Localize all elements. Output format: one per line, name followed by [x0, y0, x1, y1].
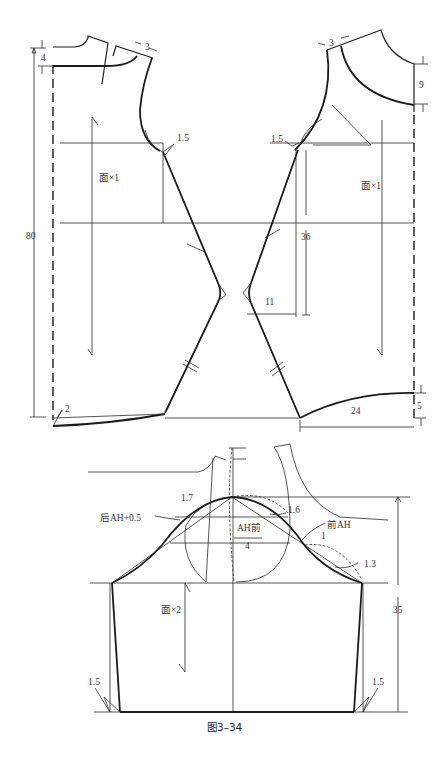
label-sleeve-length: 35: [393, 605, 403, 615]
label-hem-rise: 5: [417, 401, 422, 411]
front-shoulder-neck: [327, 30, 414, 112]
label-front-curve: 前AH: [327, 519, 351, 530]
label-waist-suppression: 11: [265, 297, 274, 307]
back-neck-shoulder: [53, 36, 108, 84]
ref-back-armhole: [206, 458, 213, 582]
back-armhole: [140, 58, 160, 151]
label-total-length: 80: [26, 231, 36, 241]
sleeve-grain-arrow: [179, 583, 190, 672]
label-back-grain: 面×1: [99, 173, 119, 183]
front-cap-raise-leader: [270, 513, 286, 515]
front-balance-notch: [265, 229, 280, 238]
label-back-armhole: 1.5: [177, 133, 189, 143]
sleeve-front-seam: [354, 583, 362, 712]
sleeve-left-hem-notch: [95, 688, 120, 712]
sleeve-piece: [88, 444, 410, 712]
label-front-armhole: 1.5: [271, 134, 283, 144]
label-front-neck-depth: 9: [419, 80, 424, 90]
label-back-curve: 后AH+0.5: [100, 513, 141, 523]
label-sleeve-grain: 面×2: [161, 605, 181, 615]
back-neck-curve: [53, 56, 137, 66]
label-back-neck-depth: 4: [41, 53, 46, 63]
sleeve-right-hem-notch: [354, 688, 378, 712]
back-grain-arrow: [88, 117, 98, 355]
label-left-hem: 1.5: [88, 677, 100, 687]
label-back-shoulder: 3: [145, 42, 150, 52]
label-back-cap-raise: 1.7: [181, 493, 193, 503]
front-neck-curve: [341, 46, 414, 105]
back-side-seam: [163, 152, 220, 413]
label-hem-width: 24: [351, 406, 361, 416]
label-waist-height: 36: [301, 232, 311, 242]
sleeve-back-seam: [112, 583, 120, 712]
label-fraction-denominator: 4: [245, 541, 250, 551]
ref-back-neck: [88, 456, 226, 472]
label-front-cap-raise: 1.6: [288, 505, 300, 515]
back-body-piece: [30, 36, 226, 426]
front-armhole: [295, 50, 328, 150]
front-armhole-notch: [285, 141, 299, 146]
label-hem-drop: 2: [65, 404, 70, 414]
label-front-hollow: 1.3: [364, 559, 376, 569]
pattern-diagram: 4 3 1.5 80 2 面×1 3 9 1.5 面×1 36 11 24 5: [0, 0, 448, 769]
label-fraction-numerator: AH前: [237, 522, 261, 533]
label-front-crossing: 1: [321, 531, 326, 541]
label-front-shoulder: 3: [329, 38, 334, 48]
front-side-seam: [249, 150, 300, 418]
label-front-grain: 面×1: [361, 181, 381, 191]
hem-width-dimension: [300, 420, 414, 432]
figure-caption: 图3–34: [207, 721, 243, 733]
front-grain-arrow: [377, 120, 382, 355]
label-right-hem: 1.5: [372, 677, 384, 687]
